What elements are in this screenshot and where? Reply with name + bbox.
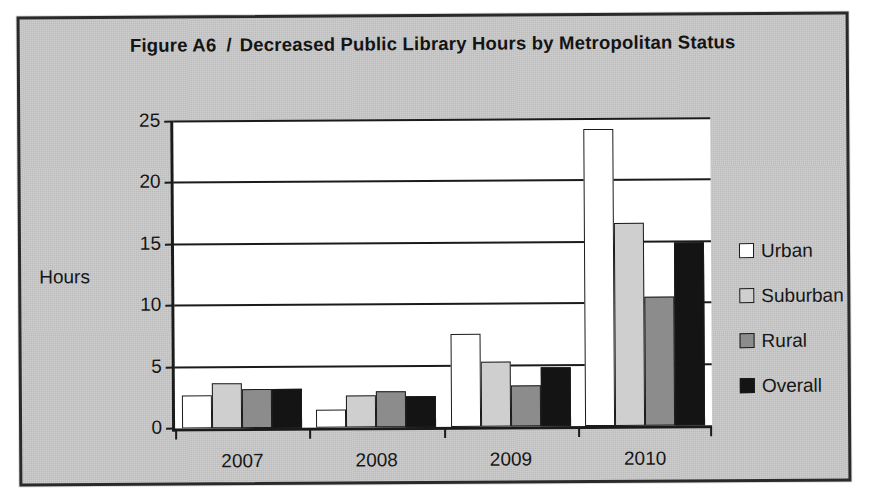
legend-item-overall[interactable]: Overall [740, 362, 869, 408]
bar-rural-2010[interactable] [644, 297, 675, 426]
bar-overall-2009[interactable] [540, 367, 570, 426]
bar-urban-2008[interactable] [316, 409, 346, 428]
bar-rural-2008[interactable] [376, 392, 406, 428]
y-tick-10 [165, 305, 174, 307]
bar-group-2010: 2010 [576, 118, 712, 426]
plot-wrapper: Hours 0510152025 2007200820092010 [150, 118, 712, 431]
legend-item-urban[interactable]: Urban [739, 227, 869, 273]
bar-overall-2008[interactable] [406, 396, 436, 427]
y-tick-label-20: 20 [139, 171, 160, 193]
legend-label-urban: Urban [761, 239, 813, 261]
x-tick-end [710, 427, 712, 436]
y-tick-20 [165, 182, 174, 184]
y-tick-label-10: 10 [140, 294, 161, 316]
bars-layer: 2007200820092010 [173, 118, 712, 428]
legend-swatch-rural [740, 333, 755, 348]
bar-group-2009: 2009 [442, 119, 578, 427]
y-tick-label-15: 15 [140, 232, 161, 254]
x-axis-label-2010: 2010 [578, 447, 712, 470]
x-tick-2009 [444, 429, 446, 438]
legend-item-rural[interactable]: Rural [739, 317, 869, 363]
y-tick-0 [166, 428, 175, 430]
bar-group-2008: 2008 [307, 120, 443, 428]
bar-overall-2010[interactable] [674, 242, 705, 425]
y-tick-label-25: 25 [139, 110, 160, 132]
figure-frame: Figure A6/Decreased Public Library Hours… [17, 11, 852, 486]
figure-title: Figure A6/Decreased Public Library Hours… [20, 30, 846, 57]
bar-urban-2007[interactable] [182, 395, 212, 428]
y-tick-5 [166, 366, 175, 368]
x-axis-label-2008: 2008 [309, 449, 443, 472]
figure-root: Figure A6/Decreased Public Library Hours… [0, 0, 869, 503]
plot-area: 0510152025 2007200820092010 [170, 118, 712, 431]
legend-label-rural: Rural [761, 329, 807, 351]
bar-urban-2009[interactable] [450, 333, 481, 426]
chart-legend: UrbanSuburbanRuralOverall [739, 227, 869, 408]
bar-overall-2007[interactable] [272, 389, 302, 428]
bar-suburban-2007[interactable] [212, 383, 242, 429]
bar-suburban-2009[interactable] [480, 361, 510, 426]
x-tick-2008 [309, 430, 311, 439]
figure-title-separator: / [226, 34, 231, 55]
figure-number: Figure A6 [130, 34, 217, 56]
x-tick-2007 [175, 431, 177, 440]
bar-rural-2007[interactable] [242, 389, 272, 428]
y-tick-25 [164, 121, 173, 123]
x-tick-2010 [578, 428, 580, 437]
y-tick-15 [165, 243, 174, 245]
legend-item-suburban[interactable]: Suburban [739, 272, 869, 318]
legend-label-suburban: Suburban [761, 284, 844, 307]
figure-title-text: Decreased Public Library Hours by Metrop… [240, 31, 736, 55]
legend-label-overall: Overall [762, 374, 822, 396]
x-axis-label-2007: 2007 [175, 450, 309, 473]
bar-group-2007: 2007 [173, 121, 309, 429]
x-axis-label-2009: 2009 [444, 448, 578, 471]
y-axis-title: Hours [39, 266, 90, 288]
legend-swatch-overall [740, 378, 755, 393]
y-tick-label-0: 0 [151, 417, 162, 439]
bar-urban-2010[interactable] [583, 129, 615, 426]
bar-suburban-2008[interactable] [346, 395, 376, 427]
bar-rural-2009[interactable] [510, 386, 540, 427]
legend-swatch-urban [739, 243, 754, 258]
legend-swatch-suburban [739, 288, 754, 303]
y-tick-label-5: 5 [151, 355, 162, 377]
bar-suburban-2010[interactable] [614, 223, 645, 426]
